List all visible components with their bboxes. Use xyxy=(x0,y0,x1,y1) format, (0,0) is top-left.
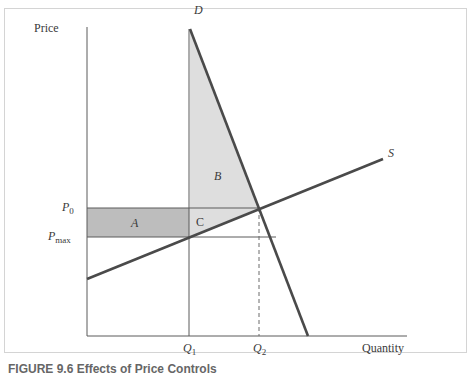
figure-caption: FIGURE 9.6 Effects of Price Controls xyxy=(8,362,217,376)
x-axis-label: Quantity xyxy=(362,341,404,355)
pmax-label: Pmax xyxy=(47,229,71,245)
region-a-label: A xyxy=(130,216,139,230)
q1-label: Q1 xyxy=(183,341,196,357)
demand-label: D xyxy=(193,3,203,17)
supply-label: S xyxy=(388,146,394,160)
region-b-label: B xyxy=(214,169,222,183)
y-axis-label: Price xyxy=(34,21,59,35)
p0-label: P0 xyxy=(61,200,74,216)
q2-label: Q2 xyxy=(253,341,266,357)
region-c-label: C xyxy=(196,215,204,229)
